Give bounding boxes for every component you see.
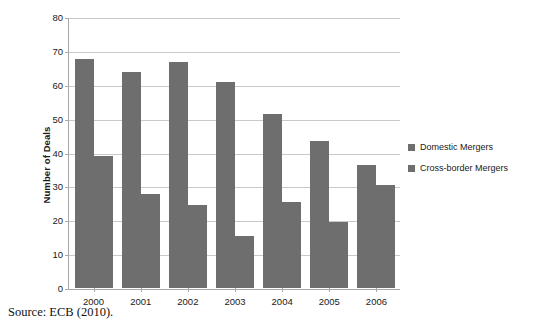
x-axis-tick-mark bbox=[141, 288, 142, 292]
y-axis-tick-mark bbox=[65, 187, 69, 188]
bar-2000-cross-border bbox=[94, 156, 113, 288]
bar-group: 2003 bbox=[211, 18, 258, 288]
bar-2006-domestic bbox=[357, 165, 376, 288]
x-axis-tick-mark bbox=[376, 288, 377, 292]
bar-groups: 2000200120022003200420052006 bbox=[70, 18, 400, 288]
y-axis-tick-mark bbox=[65, 154, 69, 155]
plot-area: 01020304050607080 2000200120022003200420… bbox=[68, 18, 400, 290]
y-axis-tick-label: 70 bbox=[52, 47, 63, 57]
y-axis-title: Number of Deals bbox=[41, 127, 52, 204]
legend-label-domestic: Domestic Mergers bbox=[420, 143, 493, 152]
y-axis-tick-mark bbox=[65, 86, 69, 87]
bar-2002-domestic bbox=[169, 62, 188, 288]
legend-swatch-cross-border-icon bbox=[408, 165, 415, 172]
bar-2003-cross-border bbox=[235, 236, 254, 288]
y-axis-tick-label: 30 bbox=[52, 183, 63, 193]
y-axis-tick-mark bbox=[65, 289, 69, 290]
legend-swatch-domestic-icon bbox=[408, 144, 415, 151]
chart-legend: Domestic Mergers Cross-border Mergers bbox=[408, 143, 548, 185]
bar-group: 2005 bbox=[306, 18, 353, 288]
y-axis-tick-mark bbox=[65, 221, 69, 222]
bar-group: 2001 bbox=[117, 18, 164, 288]
bar-2001-cross-border bbox=[141, 194, 160, 289]
y-axis-tick-label: 40 bbox=[52, 149, 63, 159]
x-axis-tick-mark bbox=[188, 288, 189, 292]
bar-2005-domestic bbox=[310, 141, 329, 288]
bar-2004-domestic bbox=[263, 114, 282, 288]
x-axis-tick-label: 2004 bbox=[259, 297, 306, 307]
bar-2001-domestic bbox=[122, 72, 141, 288]
bar-group: 2004 bbox=[259, 18, 306, 288]
bar-2004-cross-border bbox=[282, 202, 301, 288]
x-axis-tick-mark bbox=[235, 288, 236, 292]
bar-chart-figure: Number of Deals 01020304050607080 200020… bbox=[0, 0, 550, 330]
x-axis-tick-mark bbox=[94, 288, 95, 292]
legend-entry-domestic: Domestic Mergers bbox=[408, 143, 548, 152]
legend-label-cross-border: Cross-border Mergers bbox=[420, 164, 508, 173]
legend-entry-cross-border: Cross-border Mergers bbox=[408, 164, 548, 173]
x-axis-tick-mark bbox=[282, 288, 283, 292]
y-axis-tick-mark bbox=[65, 52, 69, 53]
bar-2005-cross-border bbox=[329, 222, 348, 288]
bar-group: 2006 bbox=[353, 18, 400, 288]
source-note: Source: ECB (2010). bbox=[8, 305, 113, 320]
y-axis-tick-mark bbox=[65, 18, 69, 19]
x-axis-tick-label: 2002 bbox=[164, 297, 211, 307]
bar-2002-cross-border bbox=[188, 205, 207, 288]
x-axis-tick-label: 2005 bbox=[306, 297, 353, 307]
y-axis-tick-mark bbox=[65, 120, 69, 121]
bar-2003-domestic bbox=[216, 82, 235, 288]
y-axis-tick-label: 50 bbox=[52, 115, 63, 125]
x-axis-tick-mark bbox=[329, 288, 330, 292]
y-axis-tick-label: 20 bbox=[52, 217, 63, 227]
bar-2000-domestic bbox=[75, 59, 94, 289]
x-axis-tick-label: 2006 bbox=[353, 297, 400, 307]
bar-group: 2000 bbox=[70, 18, 117, 288]
bar-group: 2002 bbox=[164, 18, 211, 288]
y-axis-tick-label: 0 bbox=[58, 284, 63, 294]
x-axis-tick-label: 2001 bbox=[117, 297, 164, 307]
y-axis-tick-label: 80 bbox=[52, 13, 63, 23]
bar-2006-cross-border bbox=[376, 185, 395, 288]
y-axis-tick-label: 60 bbox=[52, 81, 63, 91]
x-axis-tick-label: 2003 bbox=[211, 297, 258, 307]
y-axis-tick-label: 10 bbox=[52, 250, 63, 260]
y-axis-tick-mark bbox=[65, 255, 69, 256]
